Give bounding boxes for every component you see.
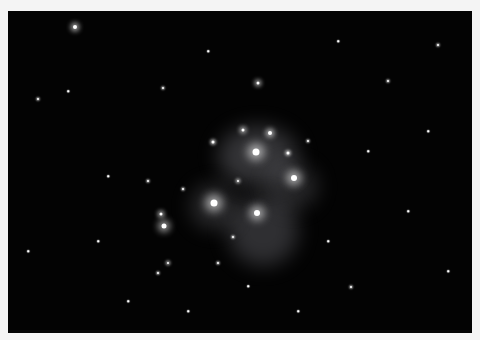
star bbox=[162, 224, 167, 229]
star bbox=[27, 250, 29, 252]
star bbox=[350, 286, 352, 288]
star bbox=[162, 87, 164, 89]
star bbox=[242, 129, 245, 132]
star bbox=[367, 150, 369, 152]
star bbox=[307, 140, 309, 142]
star bbox=[253, 149, 260, 156]
star bbox=[232, 236, 234, 238]
star bbox=[447, 270, 449, 272]
star bbox=[407, 210, 409, 212]
star bbox=[247, 285, 249, 287]
star bbox=[37, 98, 39, 100]
star bbox=[268, 131, 272, 135]
star bbox=[327, 240, 329, 242]
star bbox=[212, 141, 215, 144]
star bbox=[187, 310, 189, 312]
star bbox=[127, 300, 129, 302]
star bbox=[387, 80, 389, 82]
star bbox=[427, 130, 429, 132]
star bbox=[107, 175, 109, 177]
star bbox=[97, 240, 99, 242]
star bbox=[207, 50, 209, 52]
star bbox=[160, 213, 163, 216]
star bbox=[297, 310, 299, 312]
star bbox=[254, 210, 260, 216]
star bbox=[337, 40, 339, 42]
star bbox=[257, 82, 260, 85]
star bbox=[217, 262, 219, 264]
star bbox=[67, 90, 69, 92]
star bbox=[291, 175, 297, 181]
nebula-glow bbox=[268, 164, 318, 209]
star bbox=[147, 180, 149, 182]
star bbox=[157, 272, 159, 274]
star bbox=[211, 200, 218, 207]
star-cluster-photo bbox=[8, 11, 472, 333]
star bbox=[437, 44, 439, 46]
star bbox=[237, 180, 239, 182]
star bbox=[287, 152, 290, 155]
star bbox=[182, 188, 184, 190]
star bbox=[167, 262, 169, 264]
star bbox=[73, 25, 77, 29]
